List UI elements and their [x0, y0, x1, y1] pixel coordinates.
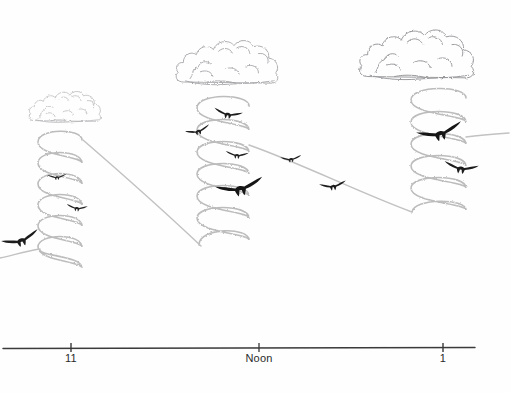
bird-2 — [66, 204, 88, 213]
bird-1 — [1, 229, 41, 252]
bird-10 — [416, 121, 464, 146]
time-axis — [3, 343, 475, 352]
bird-7 — [215, 177, 265, 201]
axis-tick-label-1: 1 — [440, 352, 446, 364]
thermal-middle — [197, 96, 249, 245]
glide-out-right — [466, 133, 509, 137]
bird-8 — [280, 155, 302, 164]
bird-6 — [225, 151, 248, 160]
cloud-group — [29, 30, 473, 123]
glide-middle-to-right — [249, 145, 412, 212]
glide-left-to-middle — [83, 140, 201, 246]
glide-into-left — [0, 249, 40, 258]
thermal-left — [38, 131, 82, 268]
axis-tick-label-noon: Noon — [245, 352, 272, 364]
figure-panel: 11 Noon 1 — [0, 0, 511, 393]
sketch-illustration — [0, 0, 511, 393]
thermal-group — [38, 88, 466, 268]
cloud-left — [29, 91, 100, 122]
cloud-right — [360, 30, 474, 80]
axis-line — [3, 348, 475, 349]
bird-9 — [319, 181, 347, 193]
axis-tick-label-11: 11 — [65, 352, 77, 364]
cloud-middle — [176, 41, 278, 85]
thermal-right — [411, 88, 466, 212]
